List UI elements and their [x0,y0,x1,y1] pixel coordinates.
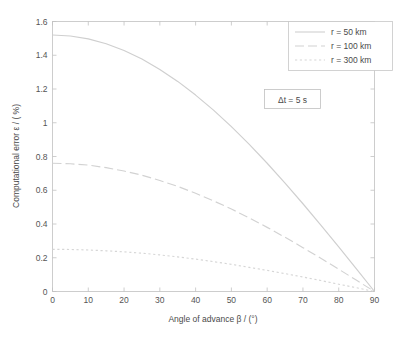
chart-legend: r = 50 km r = 100 km r = 300 km [289,22,393,71]
y-axis-title: Computational error ε / ( %) [11,104,21,208]
x-axis-title: Angle of advance β / (°) [168,314,257,324]
x-tick-label: 70 [298,295,308,305]
x-tick-label: 0 [50,295,55,305]
annotation-text: Δt = 5 s [278,95,307,105]
x-tick-label: 40 [191,295,201,305]
x-tick-label: 90 [370,295,380,305]
x-tick-label: 60 [262,295,272,305]
x-tick-label: 30 [155,295,165,305]
annotation-delta-t: Δt = 5 s [265,90,321,109]
legend-label-r-50: r = 50 km [331,27,367,37]
y-tick-label: 0.8 [36,152,48,162]
y-tick-label: 1.4 [36,50,48,60]
y-tick-label: 0.6 [36,185,48,195]
y-tick-label: 1.6 [36,17,48,27]
chart-figure: 0102030405060708090 00.20.40.60.811.21.4… [0,0,408,340]
x-tick-label: 80 [334,295,344,305]
x-tick-label: 10 [84,295,94,305]
y-axis-tick-labels: 00.20.40.60.811.21.41.6 [36,17,48,297]
legend-label-r-100: r = 100 km [331,41,371,51]
y-tick-label: 1.2 [36,84,48,94]
x-tick-label: 20 [119,295,129,305]
y-tick-label: 1 [43,118,48,128]
x-tick-label: 50 [227,295,237,305]
y-tick-label: 0 [43,287,48,297]
y-tick-label: 0.4 [36,219,48,229]
y-tick-label: 0.2 [36,253,48,263]
legend-label-r-300: r = 300 km [331,55,371,65]
